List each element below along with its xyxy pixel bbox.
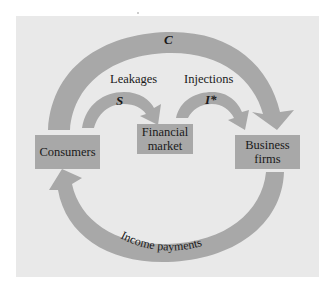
financial-market-label-line1: Financial (142, 125, 189, 139)
business-firms-node: Business firms (235, 135, 300, 169)
consumption-symbol: C (164, 32, 173, 48)
consumers-node: Consumers (35, 135, 100, 169)
investment-symbol: I* (205, 92, 217, 108)
business-firms-label-line1: Business (245, 138, 289, 152)
business-firms-label-line2: firms (254, 152, 280, 166)
saving-symbol: S (116, 93, 123, 109)
financial-market-node: Financial market (137, 124, 193, 154)
consumers-label: Consumers (39, 145, 95, 159)
financial-market-label-line2: market (148, 139, 183, 153)
injections-label: Injections (184, 72, 233, 87)
leakages-label: Leakages (110, 72, 157, 87)
